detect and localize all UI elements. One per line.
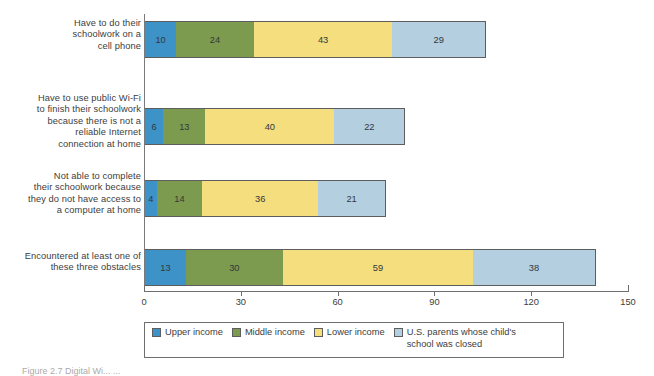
legend-label: Upper income (165, 327, 223, 339)
x-tick (628, 285, 629, 292)
category-label-line: Encountered at least one of (6, 251, 141, 262)
category-label-line: they do not have access to (6, 194, 141, 205)
plot-area: Have to do theirschoolwork on acell phon… (0, 0, 654, 300)
bar-segment-middle-income: 30 (186, 249, 283, 286)
bar-row: 4143621 (144, 180, 386, 217)
bar-segment-u-s-parents-whose-child-s-school-was-closed: 29 (392, 21, 486, 58)
bar-segment-upper-income: 4 (144, 180, 157, 217)
legend-swatch-icon (152, 328, 161, 337)
bar-segment-lower-income: 59 (283, 249, 473, 286)
category-label-line: because there is not a (6, 116, 141, 127)
legend-label: Middle income (245, 327, 305, 339)
category-label-line: connection at home (6, 139, 141, 150)
figure-caption: Figure 2.7 Digital Wi... ... (22, 366, 121, 376)
category-label-public-wifi: Have to use public Wi-Fito finish their … (6, 93, 141, 150)
x-tick (434, 291, 435, 296)
bar-segment-upper-income: 13 (144, 249, 186, 286)
bar-segment-lower-income: 43 (254, 21, 393, 58)
category-label-line: their schoolwork because (6, 182, 141, 193)
bar-segment-u-s-parents-whose-child-s-school-was-closed: 21 (318, 180, 386, 217)
category-label-line: Not able to complete (6, 171, 141, 182)
category-label-line: a computer at home (6, 205, 141, 216)
bar-row: 10244329 (144, 21, 486, 58)
legend-swatch-icon (314, 328, 323, 337)
category-label-line: these three obstacles (6, 262, 141, 273)
category-label-no-computer: Not able to completetheir schoolwork bec… (6, 171, 141, 217)
bar-segment-middle-income: 24 (176, 21, 253, 58)
category-label-at-least-one: Encountered at least one ofthese three o… (6, 251, 141, 274)
x-tick-label: 30 (236, 297, 246, 307)
x-tick-label: 60 (332, 297, 342, 307)
bar-segment-u-s-parents-whose-child-s-school-was-closed: 38 (473, 249, 596, 286)
legend-row: Upper incomeMiddle incomeLower incomeU.S… (152, 327, 556, 350)
x-tick-label: 150 (620, 297, 636, 307)
legend-swatch-icon (232, 328, 241, 337)
bar-segment-upper-income: 6 (144, 108, 163, 145)
x-tick (531, 291, 532, 296)
x-tick (241, 291, 242, 296)
category-label-line: reliable Internet (6, 127, 141, 138)
bar-row: 6134022 (144, 108, 405, 145)
legend-swatch-icon (394, 328, 403, 337)
legend-item[interactable]: Middle income (232, 327, 305, 339)
legend-item[interactable]: U.S. parents whose child's school was cl… (394, 327, 543, 350)
legend: Upper incomeMiddle incomeLower incomeU.S… (144, 322, 564, 358)
bar-segment-upper-income: 10 (144, 21, 176, 58)
legend-item[interactable]: Lower income (314, 327, 385, 339)
category-label-line: to finish their schoolwork (6, 104, 141, 115)
x-tick (338, 291, 339, 296)
legend-label: Lower income (327, 327, 385, 339)
legend-label: U.S. parents whose child's school was cl… (407, 327, 543, 350)
x-axis-line (144, 291, 628, 292)
x-tick-label: 90 (429, 297, 439, 307)
bar-segment-middle-income: 13 (163, 108, 205, 145)
category-label-cell-phone: Have to do theirschoolwork on acell phon… (6, 18, 141, 52)
category-label-line: schoolwork on a (6, 29, 141, 40)
x-tick-label: 0 (141, 297, 146, 307)
category-label-line: cell phone (6, 41, 141, 52)
y-axis-line (144, 14, 145, 292)
category-label-line: Have to use public Wi-Fi (6, 93, 141, 104)
bar-segment-lower-income: 40 (205, 108, 334, 145)
bar-row: 13305938 (144, 249, 596, 286)
bar-segment-lower-income: 36 (202, 180, 318, 217)
bar-segment-u-s-parents-whose-child-s-school-was-closed: 22 (334, 108, 405, 145)
category-label-line: Have to do their (6, 18, 141, 29)
legend-item[interactable]: Upper income (152, 327, 223, 339)
x-tick (144, 285, 145, 292)
bar-segment-middle-income: 14 (157, 180, 202, 217)
x-tick-label: 120 (523, 297, 539, 307)
